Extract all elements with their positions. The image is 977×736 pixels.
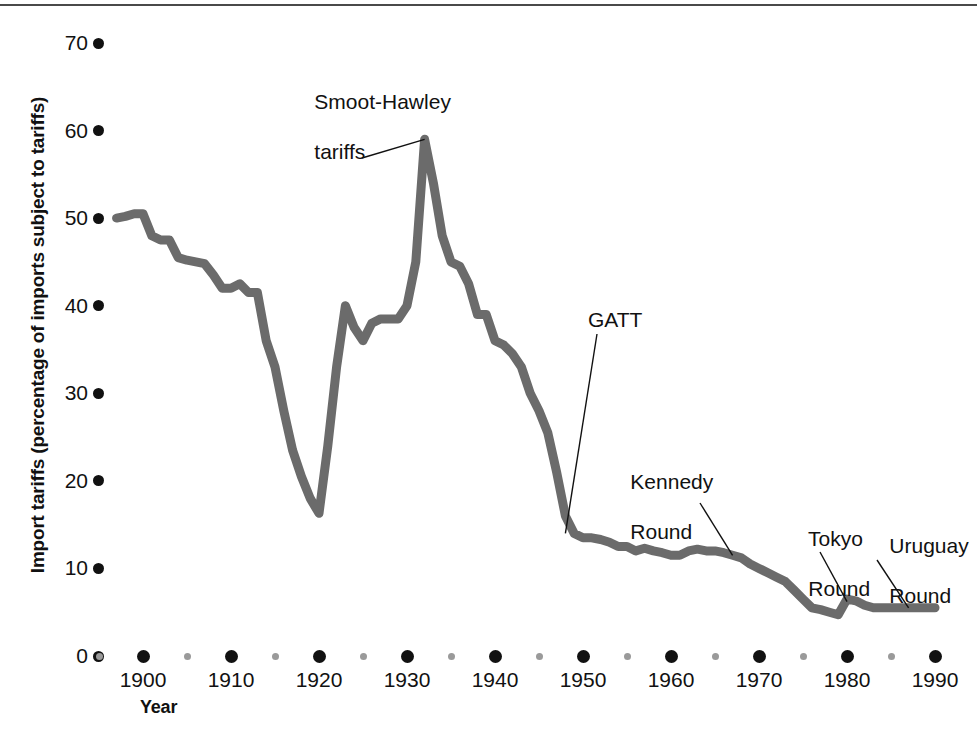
annotation-tokyo-round-line1: Tokyo: [808, 527, 863, 550]
annotation-smoot-hawley: Smoot-Hawley tariffs: [291, 64, 451, 189]
annotation-smoot-hawley-line2: tariffs: [314, 140, 365, 163]
annotation-gatt: GATT: [588, 307, 642, 332]
annotation-uruguay-round-line1: Uruguay: [889, 534, 968, 557]
annotation-smoot-hawley-line1: Smoot-Hawley: [314, 90, 451, 113]
chart-figure: Import tariffs (percentage of imports su…: [0, 0, 977, 736]
annotation-uruguay-round: Uruguay Round: [866, 508, 969, 633]
annotation-tokyo-round: Tokyo Round: [785, 501, 870, 626]
annotation-uruguay-round-line2: Round: [889, 584, 951, 607]
annotation-kennedy-round-line1: Kennedy: [630, 470, 713, 493]
x-axis-title: Year: [140, 697, 177, 718]
annotation-tokyo-round-line2: Round: [808, 577, 870, 600]
annotation-kennedy-round-line2: Round: [630, 520, 692, 543]
annotation-kennedy-round: Kennedy Round: [607, 444, 713, 569]
leader-line-1: [565, 334, 597, 533]
